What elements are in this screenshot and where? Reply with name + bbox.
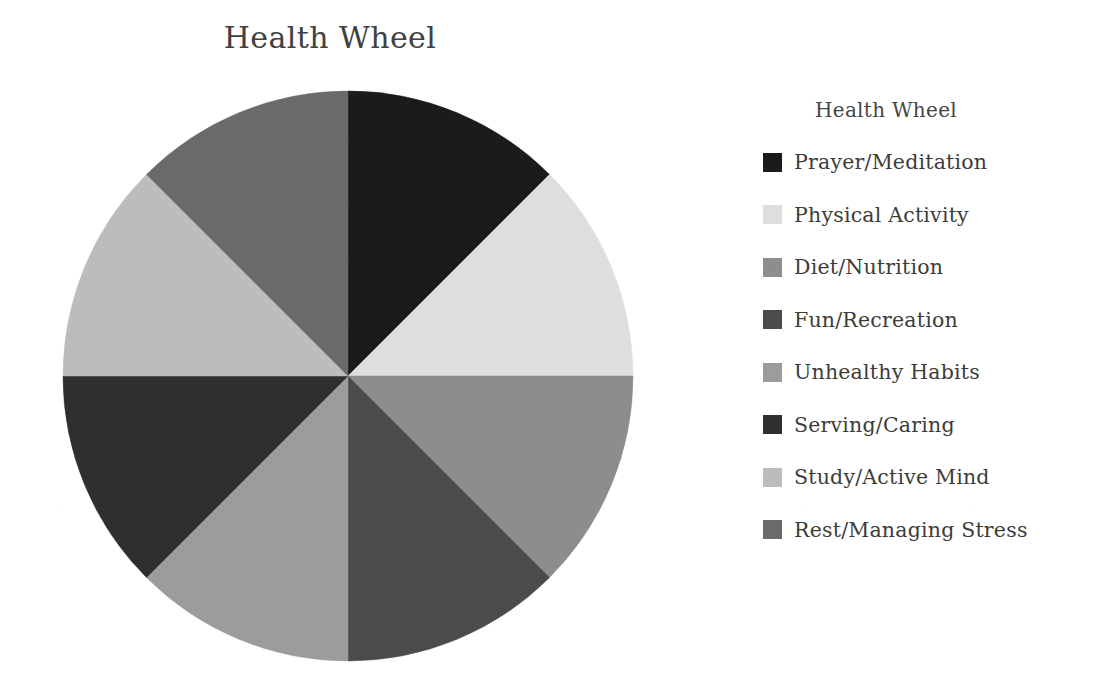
chart-page: Health Wheel Health Wheel Prayer/Meditat… (0, 0, 1120, 683)
legend-item[interactable]: Prayer/Meditation (763, 136, 1093, 189)
legend-item-label: Unhealthy Habits (794, 362, 980, 383)
legend-item[interactable]: Physical Activity (763, 189, 1093, 242)
legend-item-label: Diet/Nutrition (794, 257, 943, 278)
legend-item-label: Serving/Caring (794, 415, 955, 436)
legend-swatch-icon (763, 258, 782, 277)
legend-swatch-icon (763, 415, 782, 434)
pie-chart (60, 88, 636, 664)
legend-item[interactable]: Diet/Nutrition (763, 241, 1093, 294)
legend-item[interactable]: Unhealthy Habits (763, 346, 1093, 399)
legend-item-label: Fun/Recreation (794, 310, 958, 331)
pie-slice-group (63, 91, 633, 661)
legend-item[interactable]: Fun/Recreation (763, 294, 1093, 347)
legend-swatch-icon (763, 310, 782, 329)
chart-legend: Health Wheel Prayer/MeditationPhysical A… (763, 98, 1093, 556)
legend-swatch-icon (763, 153, 782, 172)
legend-item-label: Study/Active Mind (794, 467, 990, 488)
legend-item-list: Prayer/MeditationPhysical ActivityDiet/N… (763, 136, 1093, 556)
legend-item[interactable]: Study/Active Mind (763, 451, 1093, 504)
legend-item-label: Rest/Managing Stress (794, 520, 1028, 541)
legend-title: Health Wheel (815, 98, 1093, 122)
legend-item-label: Prayer/Meditation (794, 152, 987, 173)
legend-swatch-icon (763, 520, 782, 539)
legend-swatch-icon (763, 468, 782, 487)
legend-item-label: Physical Activity (794, 205, 969, 226)
page-title: Health Wheel (0, 20, 660, 55)
legend-swatch-icon (763, 205, 782, 224)
legend-swatch-icon (763, 363, 782, 382)
pie-chart-svg (60, 88, 636, 664)
legend-item[interactable]: Serving/Caring (763, 399, 1093, 452)
legend-item[interactable]: Rest/Managing Stress (763, 504, 1093, 557)
